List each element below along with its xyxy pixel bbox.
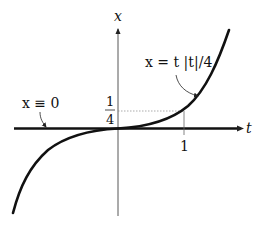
solution-pointer-arrow (176, 75, 198, 96)
x-tick-denominator: 4 (106, 112, 114, 127)
x-axis-label: x (114, 8, 122, 24)
t-axis-label: t (246, 120, 252, 136)
zero-pointer-arrow (40, 112, 46, 127)
solution-diagram: x t 1 1 4 x = t |t|/4 x ≡ 0 (0, 0, 265, 230)
t-tick-label: 1 (180, 138, 189, 154)
zero-solution-label: x ≡ 0 (22, 95, 59, 111)
solution-curve-label: x = t |t|/4 (145, 54, 212, 71)
x-tick-numerator: 1 (106, 94, 114, 109)
